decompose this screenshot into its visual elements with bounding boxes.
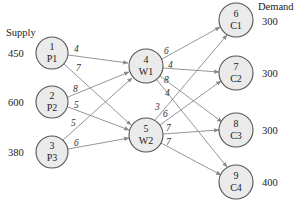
node-p2-label: P2 <box>47 102 58 113</box>
node-c4-label: C4 <box>230 182 242 193</box>
edge-p2-w2 <box>68 107 129 130</box>
node-c2-id: 7 <box>234 61 239 72</box>
node-w2: 5 W2 <box>129 118 163 152</box>
node-c2-label: C2 <box>230 73 242 84</box>
edge-label-w2-c2: 6 <box>163 109 168 119</box>
node-c3-id: 8 <box>234 118 239 129</box>
node-c1-id: 6 <box>234 8 239 19</box>
node-c3-label: C3 <box>230 130 242 141</box>
edge-w1-c3 <box>160 76 222 122</box>
node-c2: 7 C2 <box>219 56 253 90</box>
edge-label-w1-c1: 6 <box>164 46 169 56</box>
node-c1: 6 C1 <box>219 3 253 37</box>
edge-label-p1-w1: 4 <box>74 44 79 54</box>
edge-label-p2-w2: 5 <box>74 100 79 110</box>
supply-value-p3: 380 <box>8 147 24 158</box>
node-w2-id: 5 <box>144 123 149 134</box>
supply-value-p1: 450 <box>8 48 24 59</box>
demand-header: Demand <box>258 1 294 12</box>
demand-value-c4: 400 <box>262 177 278 188</box>
node-c3: 8 C3 <box>219 113 253 147</box>
transshipment-network-diagram: Supply Demand 450 600 380 300 300 300 40… <box>0 0 294 204</box>
demand-value-c1: 300 <box>262 16 278 27</box>
node-w1-label: W1 <box>139 66 153 77</box>
edge-label-w2-c1: 3 <box>154 102 160 112</box>
node-p3-label: P3 <box>47 152 58 163</box>
node-c1-label: C1 <box>230 20 242 31</box>
edge-label-p1-w2: 7 <box>76 63 82 73</box>
edge-label-p3-w2: 6 <box>74 138 79 148</box>
node-p1-id: 1 <box>50 41 55 52</box>
demand-value-c3: 300 <box>262 125 278 136</box>
edge-label-p3-w1: 5 <box>71 118 76 128</box>
edge-label-w1-c3: 8 <box>164 75 169 85</box>
edge-label-w2-c3: 7 <box>166 123 172 133</box>
node-p1-label: P1 <box>47 53 58 64</box>
node-w1-id: 4 <box>144 54 149 65</box>
node-p2-id: 2 <box>50 90 55 101</box>
node-w2-label: W2 <box>139 135 153 146</box>
edge-p1-w1 <box>68 55 128 63</box>
demand-value-c2: 300 <box>262 68 278 79</box>
supply-value-p2: 600 <box>8 97 24 108</box>
node-w1: 4 W1 <box>129 49 163 83</box>
node-p3: 3 P3 <box>36 136 68 168</box>
node-p1: 1 P1 <box>36 37 68 69</box>
edge-label-w2-c4: 7 <box>166 137 172 147</box>
edge-label-p2-w1: 8 <box>73 84 78 94</box>
edge-label-w1-c2: 4 <box>168 60 173 70</box>
supply-header: Supply <box>6 27 37 38</box>
node-c4-id: 9 <box>234 170 239 181</box>
edge-w2-c3 <box>163 130 219 134</box>
edge-label-w1-c4: 4 <box>165 88 170 98</box>
node-p3-id: 3 <box>50 140 55 151</box>
node-p2: 2 P2 <box>36 86 68 118</box>
node-c4: 9 C4 <box>219 165 253 199</box>
